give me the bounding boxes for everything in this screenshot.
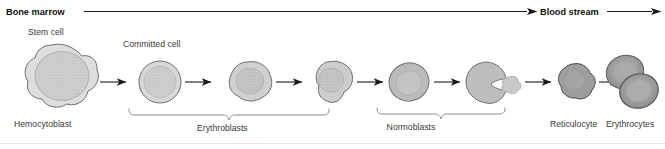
cell-hemocytoblast xyxy=(25,44,98,107)
bone-marrow-label: Bone marrow xyxy=(6,7,66,17)
hemocytoblast-nucleus xyxy=(35,52,89,101)
arrowhead-to-blood-stream xyxy=(527,8,538,15)
erythroblasts-label: Erythroblasts xyxy=(197,123,248,133)
header-axis: Bone marrow Blood stream xyxy=(6,7,662,17)
brace-normoblasts xyxy=(377,108,505,119)
cell-erythroblast-2 xyxy=(316,61,352,102)
cell-reticulocyte xyxy=(559,64,596,99)
cell-erythroblast-1 xyxy=(229,62,272,101)
cell-normoblast-2-ejecting-nucleus xyxy=(466,62,521,103)
normoblast-2-cytoplasm xyxy=(466,62,506,103)
erythroblast-1-nucleus xyxy=(236,68,264,94)
stem-cell-label: Stem cell xyxy=(28,27,64,37)
arrowhead-terminal xyxy=(651,8,662,15)
normoblasts-label: Normoblasts xyxy=(387,122,436,132)
cell-committed xyxy=(139,61,181,103)
erythropoiesis-diagram: Bone marrow Blood stream Stem cell Commi… xyxy=(0,0,665,149)
committed-cell-label: Committed cell xyxy=(123,39,181,49)
committed-cell-nucleus xyxy=(144,66,176,98)
erythrocytes-label: Erythrocytes xyxy=(606,119,655,129)
blood-stream-label: Blood stream xyxy=(540,7,599,17)
ejected-nucleus xyxy=(502,76,521,93)
cell-erythrocyte-pair xyxy=(602,50,663,113)
erythroblast-2-nucleus xyxy=(319,68,344,92)
brace-erythroblasts xyxy=(129,109,329,120)
hemocytoblast-label: Hemocytoblast xyxy=(14,119,72,129)
reticulocyte-label: Reticulocyte xyxy=(550,119,597,129)
cell-normoblast-1 xyxy=(384,58,434,107)
